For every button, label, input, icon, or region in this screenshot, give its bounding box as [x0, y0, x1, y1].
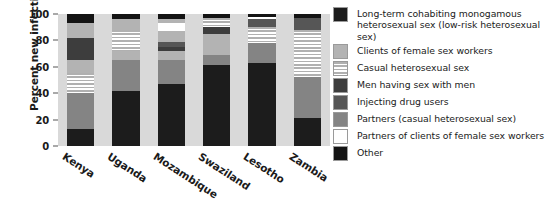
legend-swatch-icon: [333, 95, 348, 110]
legend-label: Men having sex with men: [357, 78, 475, 90]
bar-segment-msm[interactable]: [203, 27, 230, 34]
bar-segment-longterm[interactable]: [158, 84, 185, 146]
bar-segment-other[interactable]: [294, 14, 321, 18]
bar-segment-other[interactable]: [67, 14, 94, 23]
legend-label: Injecting drug users: [357, 95, 449, 107]
legend-item[interactable]: Injecting drug users: [333, 95, 558, 110]
bar-segment-other[interactable]: [112, 14, 139, 19]
bar-segment-clients3[interactable]: [158, 19, 185, 23]
bar-segment-clients[interactable]: [203, 34, 230, 55]
bar-segment-other[interactable]: [248, 14, 275, 17]
bar-slot: [285, 14, 330, 146]
legend-item[interactable]: Men having sex with men: [333, 78, 558, 93]
legend-label: Long-term cohabiting monogamousheterosex…: [357, 7, 558, 42]
bar-segment-casual[interactable]: [248, 27, 275, 43]
legend-swatch-icon: [333, 112, 348, 127]
bar-slot: [239, 14, 284, 146]
bar-segment-partners[interactable]: [294, 77, 321, 118]
bar-segment-pclients[interactable]: [248, 17, 275, 20]
legend-item[interactable]: Other: [333, 146, 558, 161]
bar-mozambique[interactable]: [158, 14, 185, 146]
bar-segment-clients[interactable]: [158, 51, 185, 60]
bar-segment-clients2[interactable]: [158, 31, 185, 42]
bar-zambia[interactable]: [294, 14, 321, 146]
legend-label: Other: [357, 146, 383, 158]
bar-segment-longterm[interactable]: [248, 63, 275, 146]
bar-segment-partners[interactable]: [67, 93, 94, 129]
bar-segment-casual[interactable]: [67, 73, 94, 93]
legend-label: Partners (casual heterosexual sex): [357, 112, 516, 124]
legend-swatch-icon: [333, 78, 348, 93]
x-tick-label-zambia: Zambia: [287, 150, 330, 184]
bar-swaziland[interactable]: [203, 14, 230, 146]
bar-segment-clients2[interactable]: [67, 23, 94, 38]
legend-item[interactable]: Partners of clients of female sex worker…: [333, 129, 558, 144]
bar-segment-idu[interactable]: [248, 19, 275, 27]
legend-swatch-icon: [333, 61, 348, 76]
bar-segment-partners[interactable]: [158, 60, 185, 84]
legend-swatch-icon: [333, 146, 348, 161]
bar-segment-longterm[interactable]: [203, 65, 230, 146]
chart-legend: Long-term cohabiting monogamousheterosex…: [333, 7, 558, 163]
x-axis-labels: KenyaUgandaMozambiqueSwazilandLesothoZam…: [58, 150, 330, 210]
bar-segment-clients2[interactable]: [112, 19, 139, 30]
legend-item[interactable]: Partners (casual heterosexual sex): [333, 112, 558, 127]
legend-swatch-icon: [333, 7, 348, 22]
x-tick-label-kenya: Kenya: [61, 150, 98, 180]
stacked-bar-chart-figure: Percent new infections 020406080100 Keny…: [0, 0, 560, 216]
bar-segment-longterm[interactable]: [112, 91, 139, 146]
bar-segment-longterm[interactable]: [294, 118, 321, 146]
bar-slot: [58, 14, 103, 146]
bar-segment-longterm[interactable]: [67, 129, 94, 146]
bar-segment-partners[interactable]: [248, 43, 275, 63]
bar-slot: [194, 14, 239, 146]
bar-segment-clients[interactable]: [112, 51, 139, 60]
legend-label: Partners of clients of female sex worker…: [357, 129, 544, 141]
bar-kenya[interactable]: [67, 14, 94, 146]
bar-segment-clients[interactable]: [67, 60, 94, 73]
legend-label: Casual heterosexual sex: [357, 61, 469, 73]
bar-segment-idu[interactable]: [158, 42, 185, 47]
bar-segment-partners[interactable]: [112, 60, 139, 90]
bar-segment-other[interactable]: [203, 14, 230, 18]
x-tick-label-uganda: Uganda: [106, 150, 150, 184]
bar-slot: [149, 14, 194, 146]
legend-swatch-icon: [333, 44, 348, 59]
bar-segment-partners[interactable]: [203, 55, 230, 66]
bar-segment-casual[interactable]: [203, 18, 230, 27]
bar-slot: [103, 14, 148, 146]
bar-uganda[interactable]: [112, 14, 139, 146]
bar-segment-idu[interactable]: [294, 18, 321, 30]
bar-segment-msm[interactable]: [67, 38, 94, 60]
plot-area: 020406080100: [58, 14, 330, 146]
legend-item[interactable]: Long-term cohabiting monogamousheterosex…: [333, 7, 558, 42]
bar-segment-pclients[interactable]: [158, 23, 185, 31]
legend-item[interactable]: Clients of female sex workers: [333, 44, 558, 59]
legend-label: Clients of female sex workers: [357, 44, 493, 56]
bar-segment-casual[interactable]: [112, 30, 139, 51]
legend-swatch-icon: [333, 129, 348, 144]
legend-item[interactable]: Casual heterosexual sex: [333, 61, 558, 76]
bar-lesotho[interactable]: [248, 14, 275, 146]
bar-segment-other[interactable]: [158, 14, 185, 19]
bar-segment-casual[interactable]: [294, 30, 321, 78]
bar-segment-msm[interactable]: [158, 47, 185, 51]
bars-container: [58, 14, 330, 146]
